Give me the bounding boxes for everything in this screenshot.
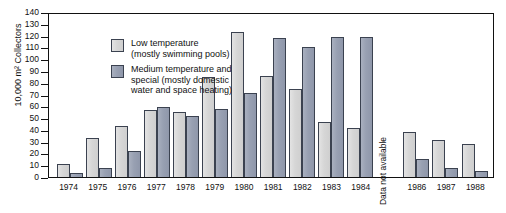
y-axis-tick-label: 80 — [30, 78, 39, 89]
plot-area: Data not available Low temperature (most… — [48, 13, 494, 178]
y-axis-tick-label: 130 — [25, 19, 39, 30]
y-axis-tick-label: 140 — [25, 7, 39, 18]
y-axis-tick-mark — [41, 72, 48, 73]
x-axis-label-1987: 1987 — [432, 178, 461, 200]
bar-1983-low — [318, 122, 331, 177]
bar-1981-medium — [273, 38, 286, 177]
x-axis-label-1977: 1977 — [142, 178, 171, 200]
bar-1978-low — [173, 112, 186, 177]
bar-1975-low — [86, 138, 99, 177]
solar-collectors-bar-chart: 10,000 m² Collectors 1401301201101009080… — [0, 0, 506, 213]
y-axis-tick-label: 0 — [34, 172, 39, 183]
y-axis-tick-label: 10 — [30, 160, 39, 171]
x-axis-label-1974: 1974 — [54, 178, 83, 200]
y-axis-tick-label: 100 — [25, 54, 39, 65]
bar-1986-medium — [416, 159, 429, 177]
y-axis-tick-mark — [41, 60, 48, 61]
x-axis-label-1988: 1988 — [461, 178, 490, 200]
y-axis-tick-mark — [41, 119, 48, 120]
y-axis-tick-label: 60 — [30, 101, 39, 112]
bar-1977-medium — [157, 107, 170, 177]
bar-1987-medium — [445, 168, 458, 177]
x-axis-label-1984: 1984 — [346, 178, 375, 200]
bar-group-1987 — [431, 14, 460, 177]
bar-group-1984 — [346, 14, 375, 177]
x-axis-label-1980: 1980 — [229, 178, 258, 200]
bar-group-1974 — [55, 14, 84, 177]
y-axis-tick-label: 120 — [25, 31, 39, 42]
bar-1984-low — [347, 128, 360, 178]
y-axis-tick-mark — [41, 166, 48, 167]
x-axis-label-1975: 1975 — [83, 178, 112, 200]
x-axis-label-1983: 1983 — [317, 178, 346, 200]
bar-1988-low — [462, 144, 475, 177]
y-axis-tick-mark — [41, 25, 48, 26]
x-axis-label-1985 — [375, 178, 402, 200]
legend-label-medium-temperature: Medium temperature and special (mostly d… — [131, 64, 232, 96]
y-axis-tick-label: 20 — [30, 148, 39, 159]
legend-item-medium-temperature: Medium temperature and special (mostly d… — [111, 64, 232, 96]
y-axis-tick-label: 30 — [30, 137, 39, 148]
y-axis-tick-mark — [41, 96, 48, 97]
y-axis-tick-mark — [41, 84, 48, 85]
y-axis-tick-mark — [41, 13, 48, 14]
bar-group-1988 — [460, 14, 489, 177]
bar-group-1981 — [259, 14, 288, 177]
bar-1987-low — [432, 140, 445, 177]
bar-1982-medium — [302, 47, 315, 177]
y-axis-tick-label: 50 — [30, 113, 39, 124]
bar-1978-medium — [186, 116, 199, 177]
bar-group-1975 — [84, 14, 113, 177]
y-axis-tick-label: 70 — [30, 90, 39, 101]
y-axis-tick-label: 110 — [25, 42, 39, 53]
y-axis-tick-mark — [41, 131, 48, 132]
y-axis-tick-label: 40 — [30, 125, 39, 136]
y-axis-tick-label: 90 — [30, 66, 39, 77]
x-axis-label-1976: 1976 — [112, 178, 141, 200]
y-axis-tick-mark — [41, 143, 48, 144]
bar-1981-low — [260, 76, 273, 177]
bar-group-1980 — [230, 14, 259, 177]
y-axis-tick-mark — [41, 37, 48, 38]
bar-1979-medium — [215, 109, 228, 177]
bar-1980-medium — [244, 93, 257, 177]
legend-label-low-temperature: Low temperature (mostly swimming pools) — [131, 38, 230, 59]
x-axis-labels: 1974197519761977197819791980198119821983… — [48, 178, 494, 200]
bar-1982-low — [289, 89, 302, 177]
y-axis-tick-mark — [41, 107, 48, 108]
y-axis-tick-mark — [41, 154, 48, 155]
x-axis-label-1986: 1986 — [402, 178, 431, 200]
bar-1986-low — [403, 132, 416, 177]
y-axis-tick-mark — [41, 48, 48, 49]
x-axis-label-1982: 1982 — [288, 178, 317, 200]
y-axis-ticks: 1401301201101009080706050403020100 — [0, 0, 48, 213]
legend: Low temperature (mostly swimming pools) … — [111, 38, 232, 101]
bar-1975-medium — [99, 168, 112, 177]
bar-1974-low — [57, 164, 70, 177]
bar-1976-low — [115, 126, 128, 177]
y-axis-tick-mark — [41, 178, 48, 179]
bar-1984-medium — [360, 37, 373, 177]
bar-group-1985: Data not available — [375, 14, 402, 177]
legend-item-low-temperature: Low temperature (mostly swimming pools) — [111, 38, 232, 59]
bar-group-1982 — [288, 14, 317, 177]
x-axis-label-1979: 1979 — [200, 178, 229, 200]
x-axis-label-1978: 1978 — [171, 178, 200, 200]
legend-swatch-medium-temperature-icon — [111, 65, 124, 78]
bar-group-1986 — [402, 14, 431, 177]
bar-group-1983 — [317, 14, 346, 177]
legend-swatch-low-temperature-icon — [111, 39, 124, 52]
bar-1974-medium — [70, 173, 83, 177]
bar-1976-medium — [128, 151, 141, 177]
bar-1988-medium — [475, 171, 488, 177]
bar-1980-low — [231, 32, 244, 177]
bar-1983-medium — [331, 37, 344, 177]
x-axis-label-1981: 1981 — [259, 178, 288, 200]
bar-1977-low — [144, 110, 157, 177]
